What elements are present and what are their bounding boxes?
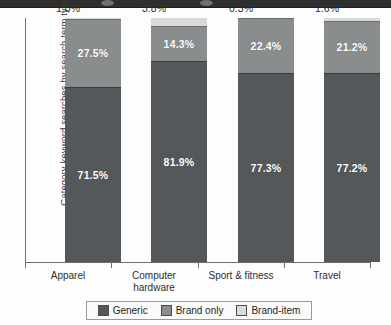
bar-group[interactable]: 14.3%81.9% xyxy=(151,18,207,262)
bar-segment-brand-only[interactable]: 22.4% xyxy=(238,19,294,74)
legend-label-brand-item: Brand-item xyxy=(251,305,300,316)
bar-segment-label: 21.2% xyxy=(324,41,380,53)
bar-group[interactable]: 21.2%77.2% xyxy=(324,18,380,262)
bar-top-value-label: 3.8% xyxy=(111,2,197,14)
bar-segment-generic[interactable]: 81.9% xyxy=(151,62,207,262)
legend-item-generic[interactable]: Generic xyxy=(98,305,148,316)
x-axis-tick-label: Travel xyxy=(284,270,370,282)
bar-top-value-label: 1.0% xyxy=(25,2,111,14)
x-axis-tick xyxy=(370,263,371,268)
legend-label-brand-only: Brand only xyxy=(176,305,224,316)
legend-swatch-brand-item-icon xyxy=(236,305,247,316)
bar-group[interactable]: 27.5%71.5% xyxy=(65,18,121,262)
bar-segment-generic[interactable]: 77.3% xyxy=(238,74,294,263)
bar-group[interactable]: 22.4%77.3% xyxy=(238,18,294,262)
x-axis-tick xyxy=(198,263,199,268)
bar-segment-label: 71.5% xyxy=(65,169,121,181)
bar-top-value-label: 0.3% xyxy=(198,2,284,14)
bar-segment-label: 77.3% xyxy=(238,162,294,174)
bar-segment-brand-only[interactable]: 21.2% xyxy=(324,22,380,74)
x-axis-tick-label-line: Travel xyxy=(284,270,370,282)
bar-segment-generic[interactable]: 77.2% xyxy=(324,74,380,262)
chart-legend: Generic Brand only Brand-item xyxy=(86,301,312,320)
bar-segment-label: 14.3% xyxy=(151,38,207,50)
x-axis-tick-label-line: Apparel xyxy=(25,270,111,282)
x-axis-tick-label-line: hardware xyxy=(111,282,197,294)
bar-segment-label: 81.9% xyxy=(151,156,207,168)
plot-area: 27.5%71.5%14.3%81.9%22.4%77.3%21.2%77.2% xyxy=(25,18,371,262)
x-axis-tick xyxy=(111,263,112,268)
bar-segment-brand-only[interactable]: 27.5% xyxy=(65,20,121,87)
x-axis-tick-label-line: Computer xyxy=(111,270,197,282)
x-axis-tick-label-line: Sport & fitness xyxy=(198,270,284,282)
x-axis-tick xyxy=(284,263,285,268)
legend-item-brand-item[interactable]: Brand-item xyxy=(236,305,300,316)
bar-segment-generic[interactable]: 71.5% xyxy=(65,88,121,262)
bar-segment-brand-only[interactable]: 14.3% xyxy=(151,27,207,62)
bar-segment-brand-item[interactable] xyxy=(151,18,207,27)
legend-swatch-generic-icon xyxy=(98,305,109,316)
bar-top-value-label: 1.6% xyxy=(284,2,370,14)
bar-segment-label: 27.5% xyxy=(65,47,121,59)
bar-segment-label: 77.2% xyxy=(324,162,380,174)
chart-root: Category keyword searches by search term… xyxy=(0,0,391,325)
x-axis-tick-label: Sport & fitness xyxy=(198,270,284,282)
bar-segment-label: 22.4% xyxy=(238,40,294,52)
x-axis-tick-label: Apparel xyxy=(25,270,111,282)
legend-swatch-brand-only-icon xyxy=(161,305,172,316)
legend-item-brand-only[interactable]: Brand only xyxy=(161,305,224,316)
x-axis-tick xyxy=(25,263,26,268)
legend-label-generic: Generic xyxy=(113,305,148,316)
x-axis-tick-label: Computerhardware xyxy=(111,270,197,294)
